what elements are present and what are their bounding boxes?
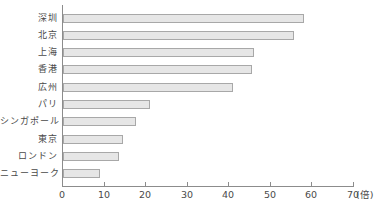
x-tick-mark xyxy=(187,182,188,186)
bar xyxy=(63,135,123,144)
bar xyxy=(63,169,100,178)
x-tick-mark xyxy=(145,182,146,186)
category-label: ロンドン xyxy=(0,151,58,162)
category-label: 北京 xyxy=(0,30,58,41)
category-label: 深圳 xyxy=(0,13,58,24)
x-axis-line xyxy=(62,186,354,187)
x-axis-unit-label: (倍) xyxy=(356,189,373,200)
category-label: 広州 xyxy=(0,82,58,93)
x-tick-label: 10 xyxy=(98,189,110,200)
x-tick-label: 20 xyxy=(139,189,151,200)
x-tick-label: 40 xyxy=(222,189,234,200)
category-label: 東京 xyxy=(0,134,58,145)
x-tick-mark xyxy=(104,182,105,186)
x-tick-mark xyxy=(62,182,63,186)
bar xyxy=(63,117,136,126)
bar xyxy=(63,100,150,109)
x-tick-label: 0 xyxy=(59,189,65,200)
bar xyxy=(63,83,233,92)
x-tick-mark xyxy=(270,182,271,186)
category-label: 上海 xyxy=(0,47,58,58)
bar xyxy=(63,65,252,74)
category-label: パリ xyxy=(0,99,58,110)
x-tick-mark xyxy=(228,182,229,186)
plot-area: 深圳北京上海香港広州パリシンガポール東京ロンドンニューヨーク0102030405… xyxy=(0,0,381,211)
x-tick-label: 50 xyxy=(264,189,276,200)
category-label: 香港 xyxy=(0,64,58,75)
x-tick-mark xyxy=(311,182,312,186)
bar xyxy=(63,31,294,40)
x-tick-label: 60 xyxy=(305,189,317,200)
category-label: ニューヨーク xyxy=(0,168,58,179)
bar xyxy=(63,14,304,23)
bar xyxy=(63,152,119,161)
bar-chart: 深圳北京上海香港広州パリシンガポール東京ロンドンニューヨーク0102030405… xyxy=(0,0,381,211)
x-tick-label: 30 xyxy=(181,189,193,200)
category-label: シンガポール xyxy=(0,116,58,127)
x-tick-mark xyxy=(353,182,354,186)
bar xyxy=(63,48,254,57)
